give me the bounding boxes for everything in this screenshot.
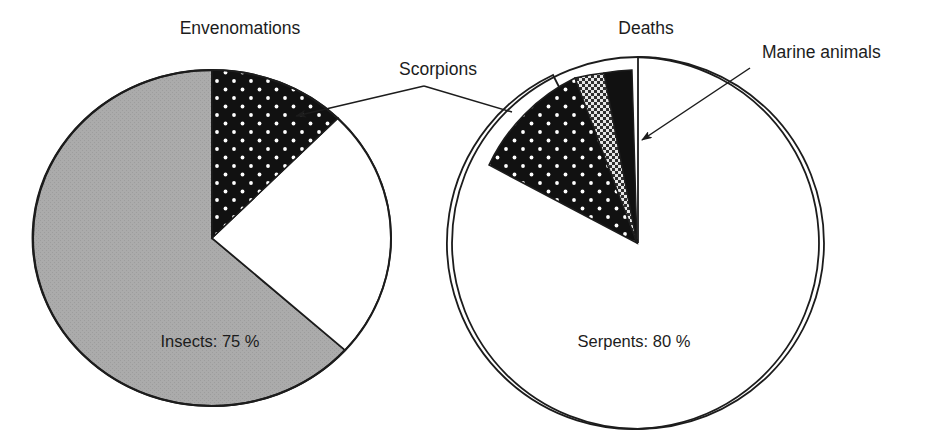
- callout-label-scorpions: Scorpions: [399, 59, 477, 79]
- figure-root: Envenomations Insects: 75 % Deaths Serpe…: [0, 0, 928, 432]
- slice-label-serpents: Serpents: 80 %: [578, 332, 691, 350]
- chart-title-envenomations: Envenomations: [180, 18, 301, 38]
- chart-title-deaths: Deaths: [618, 18, 674, 38]
- slice-label-insects: Insects: 75 %: [160, 332, 259, 350]
- pie-chart-figure: Envenomations Insects: 75 % Deaths Serpe…: [0, 0, 928, 432]
- callout-label-marine-animals: Marine animals: [762, 42, 881, 62]
